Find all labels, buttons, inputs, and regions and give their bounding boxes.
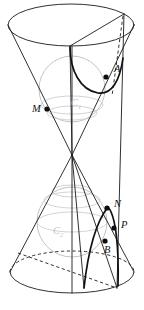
point-n-dot: [104, 205, 109, 210]
top-ellipse: [8, 4, 134, 46]
labeled-points: A M N P B: [31, 63, 128, 255]
point-n-label: N: [113, 198, 122, 209]
sphere-c2-label: C2: [53, 225, 64, 238]
point-b-dot: [102, 238, 107, 243]
lower-base-dashed-trace: [18, 253, 117, 288]
point-b-label: B: [104, 244, 111, 255]
point-p-dot: [111, 225, 116, 230]
point-a-dot: [103, 74, 108, 79]
sphere-c1-label-sub: 1: [78, 103, 81, 110]
dashed-generator-upper: [112, 16, 123, 96]
point-m-dot: [44, 106, 49, 111]
point-a-label: A: [113, 63, 121, 74]
lower-cone-left-generator: [10, 155, 72, 272]
geometry-figure: A M N P B C1 C2: [0, 0, 144, 310]
sphere-c1-label: C1: [71, 97, 81, 110]
top-ellipse-chord: [70, 14, 124, 46]
geometry-figure-canvas: A M N P B C1 C2: [0, 0, 144, 310]
plane-trace-lower: [72, 155, 117, 288]
point-m-label: M: [31, 103, 42, 114]
point-p-label: P: [120, 219, 128, 230]
upper-cone-left-generator: [8, 25, 72, 155]
upper-cone-right-generator: [72, 25, 134, 155]
